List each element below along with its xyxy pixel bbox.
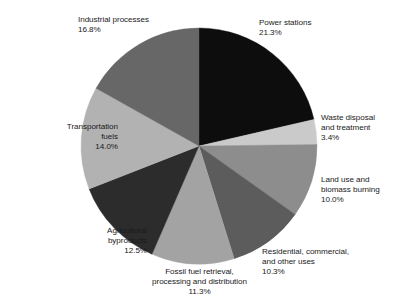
- slice-label-text: Industrial processes: [78, 15, 149, 25]
- slice-label-text: biomass burning: [321, 185, 380, 195]
- slice-label-agricultural: Agricultural byproducts 12.5%: [41, 226, 147, 257]
- pie-chart-figure: Power stations 21.3% Waste disposal and …: [0, 0, 400, 306]
- slice-label-text: fuels: [8, 132, 118, 142]
- slice-label-value: 14.0%: [8, 142, 118, 152]
- slice-label-text: and treatment: [321, 123, 375, 133]
- slice-label-text: byproducts: [41, 236, 147, 246]
- slice-label-text: Land use and: [321, 175, 380, 185]
- slice-label-power-stations: Power stations 21.3%: [259, 18, 311, 38]
- slice-label-value: 12.5%: [41, 246, 147, 256]
- slice-label-land-use: Land use and biomass burning 10.0%: [321, 175, 380, 206]
- slice-label-text: Agricultural: [41, 226, 147, 236]
- slice-label-value: 10.0%: [321, 195, 380, 205]
- slice-label-fossil-fuel: Fossil fuel retrieval, processing and di…: [119, 267, 280, 298]
- slice-label-text: and other uses: [262, 257, 349, 267]
- slice-label-transportation: Transportation fuels 14.0%: [8, 122, 118, 153]
- slice-label-industrial: Industrial processes 16.8%: [78, 15, 149, 35]
- slice-label-value: 16.8%: [78, 25, 149, 35]
- slice-label-text: Transportation: [8, 122, 118, 132]
- slice-label-value: 3.4%: [321, 133, 375, 143]
- slice-label-text: Residential, commercial,: [262, 247, 349, 257]
- slice-label-value: 11.3%: [119, 287, 280, 297]
- slice-label-waste-disposal: Waste disposal and treatment 3.4%: [321, 113, 375, 144]
- slice-label-text: Waste disposal: [321, 113, 375, 123]
- slice-label-value: 21.3%: [259, 28, 311, 38]
- slice-label-text: Power stations: [259, 18, 311, 28]
- slice-label-text: Fossil fuel retrieval,: [119, 267, 280, 277]
- slice-label-text: processing and distribution: [119, 277, 280, 287]
